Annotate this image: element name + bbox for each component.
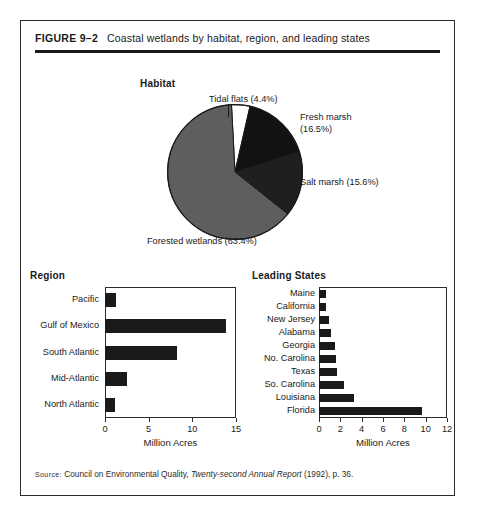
caption-rule	[35, 50, 440, 53]
x-tick-2	[340, 418, 341, 422]
states-axis-title: Million Acres	[319, 437, 447, 448]
category-label-maine: Maine	[290, 288, 315, 298]
habitat-pie-chart	[167, 104, 303, 240]
category-label-gulf-of-mexico: Gulf of Mexico	[40, 320, 99, 330]
x-tick-10	[426, 418, 427, 422]
habitat-section-title: Habitat	[140, 78, 175, 89]
bar-alabama	[319, 329, 331, 337]
bar-mid-atlantic	[105, 372, 127, 386]
category-label-louisiana: Louisiana	[276, 392, 315, 402]
category-label-north-atlantic: North Atlantic	[44, 399, 99, 409]
category-label-california: California	[276, 301, 315, 311]
bar-south-atlantic	[105, 346, 177, 360]
x-tick-5	[149, 418, 150, 422]
source-pre: Council on Environmental Quality,	[62, 469, 191, 479]
x-tick-0	[319, 418, 320, 422]
figure-caption-text: Coastal wetlands by habitat, region, and…	[107, 32, 370, 44]
bar-florida	[319, 407, 422, 415]
bar-texas	[319, 368, 337, 376]
figure-caption: FIGURE 9–2Coastal wetlands by habitat, r…	[35, 32, 435, 44]
x-tick-10	[192, 418, 193, 422]
category-label-no-carolina: No. Carolina	[264, 353, 315, 363]
bar-louisiana	[319, 394, 354, 402]
x-tick-4	[362, 418, 363, 422]
category-label-alabama: Alabama	[279, 327, 315, 337]
bar-new-jersey	[319, 316, 329, 324]
x-tick-label-12: 12	[432, 424, 462, 434]
pie-label-salt-marsh: Salt marsh (15.6%)	[300, 177, 380, 189]
x-tick-0	[105, 418, 106, 422]
x-tick-8	[404, 418, 405, 422]
category-label-mid-atlantic: Mid-Atlantic	[51, 373, 99, 383]
pie-label-fresh-marsh: Fresh marsh (16.5%)	[300, 112, 386, 135]
tidal-flats-leader-line	[228, 104, 229, 117]
x-tick-label-0: 0	[90, 424, 120, 434]
figure-container: FIGURE 9–2Coastal wetlands by habitat, r…	[0, 0, 477, 521]
category-label-so-carolina: So. Carolina	[264, 379, 315, 389]
x-tick-6	[383, 418, 384, 422]
states-section-title: Leading States	[252, 270, 326, 281]
category-label-pacific: Pacific	[72, 294, 99, 304]
x-tick-label-15: 15	[221, 424, 251, 434]
bar-pacific	[105, 293, 116, 307]
region-section-title: Region	[30, 270, 65, 281]
category-label-new-jersey: New Jersey	[267, 314, 315, 324]
category-label-south-atlantic: South Atlantic	[43, 347, 99, 357]
bar-gulf-of-mexico	[105, 319, 226, 333]
bar-no-carolina	[319, 355, 336, 363]
x-tick-label-10: 10	[177, 424, 207, 434]
pie-label-forested-wetlands: Forested wetlands (63.4%)	[147, 236, 257, 248]
region-axis-title: Million Acres	[105, 437, 236, 448]
source-post: (1992), p. 36.	[302, 469, 354, 479]
bar-so-carolina	[319, 381, 344, 389]
x-tick-12	[447, 418, 448, 422]
figure-number: FIGURE 9–2	[35, 32, 98, 44]
bar-georgia	[319, 342, 335, 350]
pie-label-tidal-flats: Tidal flats (4.4%)	[209, 94, 278, 106]
bar-north-atlantic	[105, 398, 115, 412]
category-label-georgia: Georgia	[282, 340, 315, 350]
bar-california	[319, 303, 326, 311]
category-label-texas: Texas	[291, 366, 315, 376]
x-tick-label-5: 5	[134, 424, 164, 434]
source-report-title: Twenty-second Annual Report	[191, 469, 302, 479]
category-label-florida: Florida	[287, 405, 315, 415]
source-label: Source:	[35, 471, 62, 478]
pie-svg	[167, 104, 303, 240]
x-tick-15	[236, 418, 237, 422]
source-line: Source: Council on Environmental Quality…	[35, 469, 353, 479]
bar-maine	[319, 290, 326, 298]
